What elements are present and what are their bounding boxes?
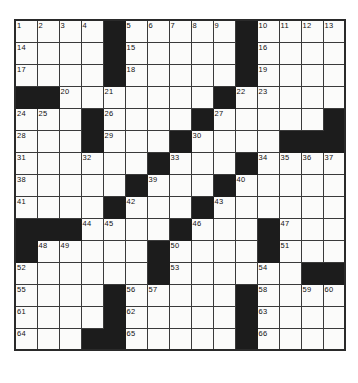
crossword-cell[interactable]: 3 (59, 20, 81, 42)
crossword-cell[interactable] (147, 130, 169, 152)
crossword-cell[interactable] (169, 196, 191, 218)
crossword-cell[interactable]: 15 (125, 42, 147, 64)
crossword-cell[interactable]: 42 (125, 196, 147, 218)
crossword-cell[interactable]: 61 (15, 306, 37, 328)
crossword-cell[interactable] (191, 86, 213, 108)
crossword-cell[interactable] (191, 328, 213, 350)
crossword-cell[interactable] (301, 42, 323, 64)
crossword-cell[interactable]: 52 (15, 262, 37, 284)
crossword-cell[interactable] (59, 64, 81, 86)
crossword-cell[interactable]: 14 (15, 42, 37, 64)
crossword-cell[interactable]: 50 (169, 240, 191, 262)
crossword-cell[interactable] (147, 328, 169, 350)
crossword-cell[interactable] (213, 306, 235, 328)
crossword-cell[interactable] (235, 262, 257, 284)
crossword-cell[interactable] (37, 284, 59, 306)
crossword-cell[interactable] (37, 152, 59, 174)
crossword-cell[interactable]: 22 (235, 86, 257, 108)
crossword-cell[interactable] (213, 64, 235, 86)
crossword-cell[interactable] (59, 108, 81, 130)
crossword-cell[interactable]: 17 (15, 64, 37, 86)
crossword-cell[interactable] (213, 284, 235, 306)
crossword-cell[interactable]: 54 (257, 262, 279, 284)
crossword-cell[interactable] (81, 64, 103, 86)
crossword-cell[interactable] (213, 262, 235, 284)
crossword-cell[interactable] (147, 42, 169, 64)
crossword-cell[interactable] (37, 306, 59, 328)
crossword-cell[interactable]: 10 (257, 20, 279, 42)
crossword-cell[interactable] (37, 174, 59, 196)
crossword-cell[interactable]: 58 (257, 284, 279, 306)
crossword-cell[interactable] (103, 174, 125, 196)
crossword-cell[interactable]: 1 (15, 20, 37, 42)
crossword-cell[interactable] (147, 64, 169, 86)
crossword-cell[interactable] (279, 86, 301, 108)
crossword-cell[interactable] (81, 262, 103, 284)
crossword-cell[interactable] (257, 108, 279, 130)
crossword-cell[interactable]: 36 (301, 152, 323, 174)
crossword-cell[interactable] (257, 174, 279, 196)
crossword-cell[interactable] (191, 240, 213, 262)
crossword-cell[interactable] (235, 218, 257, 240)
crossword-cell[interactable] (37, 64, 59, 86)
crossword-cell[interactable] (147, 196, 169, 218)
crossword-cell[interactable] (125, 152, 147, 174)
crossword-cell[interactable]: 4 (81, 20, 103, 42)
crossword-cell[interactable] (191, 64, 213, 86)
crossword-cell[interactable] (323, 64, 345, 86)
crossword-cell[interactable] (59, 152, 81, 174)
crossword-cell[interactable]: 38 (15, 174, 37, 196)
crossword-cell[interactable] (37, 196, 59, 218)
crossword-cell[interactable]: 55 (15, 284, 37, 306)
crossword-cell[interactable]: 8 (191, 20, 213, 42)
crossword-cell[interactable] (81, 240, 103, 262)
crossword-cell[interactable] (81, 284, 103, 306)
crossword-cell[interactable] (279, 196, 301, 218)
crossword-cell[interactable]: 23 (257, 86, 279, 108)
crossword-cell[interactable] (279, 108, 301, 130)
crossword-cell[interactable] (59, 306, 81, 328)
crossword-cell[interactable] (235, 130, 257, 152)
crossword-cell[interactable] (169, 284, 191, 306)
crossword-cell[interactable] (191, 306, 213, 328)
crossword-cell[interactable]: 2 (37, 20, 59, 42)
crossword-cell[interactable]: 24 (15, 108, 37, 130)
crossword-cell[interactable] (169, 306, 191, 328)
crossword-cell[interactable] (323, 174, 345, 196)
crossword-cell[interactable] (191, 284, 213, 306)
crossword-cell[interactable] (81, 42, 103, 64)
crossword-cell[interactable] (169, 64, 191, 86)
crossword-cell[interactable]: 44 (81, 218, 103, 240)
crossword-cell[interactable] (103, 152, 125, 174)
crossword-cell[interactable] (147, 86, 169, 108)
crossword-cell[interactable]: 64 (15, 328, 37, 350)
crossword-cell[interactable]: 13 (323, 20, 345, 42)
crossword-cell[interactable]: 48 (37, 240, 59, 262)
crossword-cell[interactable]: 29 (103, 130, 125, 152)
crossword-cell[interactable]: 16 (257, 42, 279, 64)
crossword-cell[interactable]: 49 (59, 240, 81, 262)
crossword-cell[interactable] (59, 42, 81, 64)
crossword-cell[interactable]: 47 (279, 218, 301, 240)
crossword-cell[interactable] (279, 64, 301, 86)
crossword-cell[interactable]: 63 (257, 306, 279, 328)
crossword-cell[interactable]: 31 (15, 152, 37, 174)
crossword-cell[interactable]: 46 (191, 218, 213, 240)
crossword-cell[interactable] (37, 262, 59, 284)
crossword-cell[interactable] (125, 108, 147, 130)
crossword-cell[interactable] (81, 86, 103, 108)
crossword-cell[interactable] (125, 262, 147, 284)
crossword-cell[interactable] (103, 262, 125, 284)
crossword-cell[interactable] (301, 196, 323, 218)
crossword-cell[interactable] (191, 174, 213, 196)
crossword-cell[interactable] (235, 196, 257, 218)
crossword-cell[interactable] (301, 174, 323, 196)
crossword-cell[interactable] (279, 42, 301, 64)
crossword-cell[interactable] (323, 218, 345, 240)
crossword-cell[interactable] (37, 42, 59, 64)
crossword-cell[interactable] (279, 306, 301, 328)
crossword-cell[interactable] (125, 130, 147, 152)
crossword-cell[interactable] (301, 328, 323, 350)
crossword-cell[interactable] (169, 328, 191, 350)
crossword-cell[interactable] (191, 262, 213, 284)
